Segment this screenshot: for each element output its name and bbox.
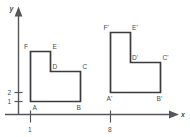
vertex-label-c: C bbox=[83, 63, 88, 70]
vertex-label-c-prime: C' bbox=[163, 54, 169, 61]
x-tick-label-1: 1 bbox=[28, 126, 32, 133]
y-tick-label-1: 1 bbox=[8, 98, 12, 105]
x-axis-label: x bbox=[180, 111, 186, 118]
x-axis-arrowhead bbox=[169, 111, 179, 119]
x-axis-ticks bbox=[31, 111, 111, 123]
vertex-label-f-prime: F' bbox=[104, 24, 109, 31]
vertex-label-f: F bbox=[24, 43, 28, 50]
y-axis bbox=[15, 7, 23, 115]
vertex-label-d-prime: D' bbox=[132, 54, 138, 61]
vertex-label-b-prime: B' bbox=[157, 95, 163, 102]
x-tick-label-8: 8 bbox=[108, 126, 112, 133]
polygon-abcdef bbox=[31, 52, 81, 102]
vertex-label-d: D bbox=[53, 63, 58, 70]
vertex-label-b: B bbox=[77, 104, 82, 111]
coordinate-plane-figure: y x 2 1 1 8 A B C D E F A' bbox=[0, 0, 190, 137]
vertex-label-a: A bbox=[33, 104, 38, 111]
y-tick-label-2: 2 bbox=[8, 89, 12, 96]
y-axis-arrowhead bbox=[15, 7, 23, 17]
polygon-abcdef-prime bbox=[111, 33, 161, 93]
y-axis-label: y bbox=[9, 5, 15, 13]
vertex-label-e-prime: E' bbox=[132, 24, 138, 31]
vertex-label-a-prime: A' bbox=[107, 95, 113, 102]
vertex-label-e: E bbox=[53, 43, 58, 50]
